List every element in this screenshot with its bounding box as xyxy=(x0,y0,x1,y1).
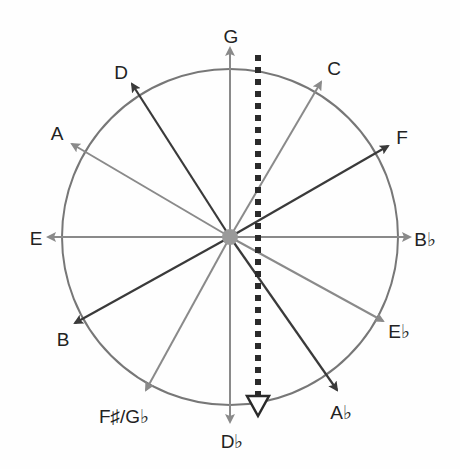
dot-segment xyxy=(255,151,261,157)
label-f: F xyxy=(396,128,408,147)
dot-segment xyxy=(255,127,261,133)
arrow-A xyxy=(72,144,230,237)
arrow-A♭ xyxy=(230,237,337,390)
dot-segment xyxy=(255,103,261,109)
dot-segment xyxy=(255,187,261,193)
label-g: G xyxy=(224,27,239,46)
label-b: B xyxy=(57,330,70,349)
arrow-F xyxy=(230,146,388,237)
dot-segment xyxy=(255,139,261,145)
dot-segment xyxy=(255,259,261,265)
dot-segment xyxy=(255,79,261,85)
dot-segment xyxy=(255,331,261,337)
dot-segment xyxy=(255,175,261,181)
dot-segment xyxy=(255,319,261,325)
dot-segment xyxy=(255,115,261,121)
dot-segment xyxy=(255,295,261,301)
diagram-canvas xyxy=(0,0,460,469)
label-d: D xyxy=(114,63,128,82)
arrow-D xyxy=(132,84,230,237)
dot-segment xyxy=(255,283,261,289)
arrow-C xyxy=(230,82,321,237)
dot-segment xyxy=(255,223,261,229)
dot-segment xyxy=(255,379,261,385)
label-e-flat: E♭ xyxy=(388,322,410,341)
dot-segment xyxy=(255,247,261,253)
dot-segment xyxy=(255,91,261,97)
dot-segment xyxy=(255,67,261,73)
dot-segment xyxy=(255,343,261,349)
label-c: C xyxy=(327,59,341,78)
label-b-flat: B♭ xyxy=(414,230,436,249)
dotted-axis xyxy=(255,55,261,397)
dot-segment xyxy=(255,163,261,169)
circle-of-fifths-diagram: G C F B♭ E♭ A♭ D♭ F♯/G♭ B E A D xyxy=(0,0,460,469)
label-e: E xyxy=(30,229,43,248)
center-dot xyxy=(222,229,238,245)
label-a: A xyxy=(51,124,64,143)
dot-segment xyxy=(255,235,261,241)
dot-segment xyxy=(255,199,261,205)
label-f-sharp-g-flat: F♯/G♭ xyxy=(99,407,149,426)
hollow-arrowhead-icon xyxy=(247,396,269,416)
dot-segment xyxy=(255,211,261,217)
dot-segment xyxy=(255,367,261,373)
label-a-flat: A♭ xyxy=(330,403,352,422)
dot-segment xyxy=(255,307,261,313)
arrow-E♭ xyxy=(230,237,383,321)
label-d-flat: D♭ xyxy=(221,432,244,451)
dot-segment xyxy=(255,55,261,61)
dot-segment xyxy=(255,355,261,361)
dot-segment xyxy=(255,271,261,277)
